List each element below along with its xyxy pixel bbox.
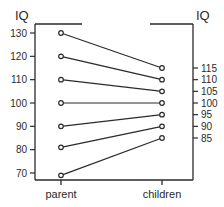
- tick-label: 95: [201, 109, 213, 120]
- tick-label: 70: [16, 168, 28, 179]
- series-line: [61, 33, 162, 68]
- child-point: [160, 66, 165, 71]
- parent-point: [59, 173, 64, 178]
- series-line: [61, 80, 162, 92]
- parent-point: [59, 145, 64, 150]
- parent-point: [59, 31, 64, 36]
- regression-chart: 130120110100908070 115110105100959085 IQ…: [0, 0, 224, 207]
- tick-label: 80: [16, 144, 28, 155]
- parent-point: [59, 54, 64, 59]
- parent-point: [59, 124, 64, 129]
- left-axis-ticks: 130120110100908070: [10, 28, 35, 179]
- x-label-children: children: [143, 188, 182, 200]
- child-point: [160, 112, 165, 117]
- tick-label: 110: [201, 74, 217, 85]
- tick-label: 130: [10, 28, 27, 39]
- left-axis-title: IQ: [15, 8, 29, 23]
- child-point: [160, 77, 165, 82]
- tick-label: 105: [201, 86, 218, 97]
- child-point: [160, 136, 165, 141]
- tick-label: 110: [11, 74, 27, 85]
- tick-label: 100: [10, 98, 27, 109]
- right-axis-title: IQ: [196, 8, 210, 23]
- right-axis-ticks: 115110105100959085: [193, 63, 218, 144]
- series-line: [61, 56, 162, 79]
- tick-label: 90: [16, 121, 28, 132]
- tick-label: 120: [10, 51, 27, 62]
- tick-label: 90: [201, 121, 213, 132]
- child-point: [160, 124, 165, 129]
- parent-point: [59, 101, 64, 106]
- child-point: [160, 89, 165, 94]
- series-line: [61, 115, 162, 127]
- x-label-parent: parent: [45, 188, 76, 200]
- parent-point: [59, 77, 64, 82]
- series-lines: [59, 31, 165, 178]
- tick-label: 100: [201, 98, 218, 109]
- tick-label: 115: [201, 63, 217, 74]
- child-point: [160, 101, 165, 106]
- tick-label: 85: [201, 133, 213, 144]
